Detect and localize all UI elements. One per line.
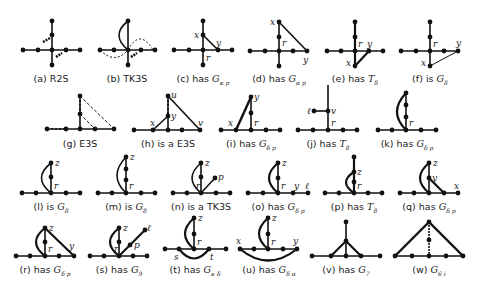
svg-text:y: y <box>68 241 75 251</box>
caption-g: (g) E3S <box>63 138 98 149</box>
caption-f: (f) is G8 <box>412 73 448 86</box>
svg-text:x: x <box>454 181 459 191</box>
svg-text:y: y <box>455 38 462 48</box>
graph-c <box>174 21 232 65</box>
caption-s: (s) has G9 <box>96 264 143 277</box>
svg-text:z: z <box>356 167 362 177</box>
svg-text:z: z <box>271 213 277 223</box>
svg-text:r: r <box>54 181 59 191</box>
svg-text:y: y <box>293 181 300 191</box>
caption-n: (n) is a TK3S <box>171 201 231 212</box>
graph-h <box>134 96 200 130</box>
graph-e <box>327 22 383 66</box>
svg-text:r: r <box>114 244 119 254</box>
caption-m: (m) is G8 <box>105 201 147 214</box>
svg-text:y: y <box>302 55 309 65</box>
svg-text:t: t <box>210 252 214 262</box>
svg-text:r: r <box>271 237 276 247</box>
svg-text:ℓ: ℓ <box>305 181 309 191</box>
caption-v: (v) has G7 <box>322 264 369 277</box>
graph-k <box>378 93 436 130</box>
svg-text:r: r <box>331 118 336 128</box>
svg-text:y: y <box>366 39 373 49</box>
caption-j: (j) has T8 <box>306 138 349 151</box>
svg-text:x: x <box>236 236 241 246</box>
svg-text:p: p <box>134 240 140 250</box>
svg-text:z: z <box>122 223 128 233</box>
caption-w: (w) G6 i <box>412 264 445 277</box>
caption-b: (b) TK3S <box>107 73 148 84</box>
svg-text:ℓ: ℓ <box>307 106 311 116</box>
svg-text:r: r <box>433 39 438 49</box>
svg-text:z: z <box>54 158 60 168</box>
graph-p <box>325 157 382 193</box>
svg-text:x: x <box>194 30 199 40</box>
caption-k: (k) has Gδ p <box>381 138 434 151</box>
graph-m <box>98 157 155 193</box>
svg-text:y: y <box>292 236 299 246</box>
graph-a <box>23 21 80 65</box>
svg-text:z: z <box>204 158 210 168</box>
caption-u: (u) has Gδ α <box>242 264 295 277</box>
svg-text:r: r <box>357 181 362 191</box>
svg-text:z: z <box>281 158 287 168</box>
svg-text:x: x <box>228 118 233 128</box>
svg-text:y: y <box>215 38 222 48</box>
caption-l: (l) is G8 <box>33 201 68 214</box>
svg-text:x: x <box>421 58 426 68</box>
svg-text:r: r <box>48 244 53 254</box>
caption-h: (h) is a E3S <box>141 138 195 149</box>
svg-text:r: r <box>281 181 286 191</box>
svg-text:z: z <box>432 158 438 168</box>
svg-text:v: v <box>198 118 203 128</box>
caption-d: (d) has Gα p <box>252 73 306 86</box>
svg-text:r: r <box>358 39 363 49</box>
caption-e: (e) has T8 <box>332 73 378 86</box>
svg-text:ℓ: ℓ <box>147 223 151 233</box>
graph-f <box>401 22 458 66</box>
graph-u <box>240 218 297 261</box>
svg-text:y: y <box>431 173 438 183</box>
svg-text:r: r <box>282 38 287 48</box>
caption-c: (c) has Gκ p <box>177 73 230 86</box>
svg-text:s: s <box>174 252 179 262</box>
svg-text:y: y <box>170 111 177 121</box>
caption-t: (t) has Gκ δ <box>169 264 220 277</box>
svg-text:r: r <box>197 237 202 247</box>
svg-text:z: z <box>197 213 203 223</box>
svg-text:u: u <box>171 90 177 100</box>
svg-text:r: r <box>254 118 259 128</box>
caption-p: (p) has T8 <box>331 201 377 214</box>
caption-r: (r) has Gδ p <box>19 264 70 277</box>
svg-text:p: p <box>218 172 224 182</box>
svg-text:r: r <box>206 53 211 63</box>
svg-text:x: x <box>150 118 155 128</box>
svg-text:r: r <box>129 181 134 191</box>
graph-d <box>250 22 307 66</box>
svg-text:x: x <box>270 17 275 27</box>
graph-b <box>100 21 155 65</box>
caption-o: (o) has Gδ p <box>251 201 304 214</box>
svg-text:z: z <box>129 152 135 162</box>
svg-text:x: x <box>346 58 351 68</box>
svg-text:z: z <box>48 223 54 233</box>
svg-text:v: v <box>331 106 336 116</box>
svg-text:r: r <box>196 181 201 191</box>
caption-i: (i) has Gδ p <box>226 138 276 151</box>
svg-text:r: r <box>409 118 414 128</box>
caption-q: (q) has Gδ p <box>402 201 455 214</box>
svg-text:y: y <box>253 92 260 102</box>
caption-a: (a) R2S <box>34 73 69 84</box>
